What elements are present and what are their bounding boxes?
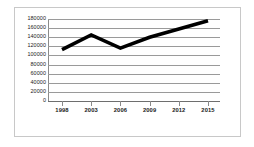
x-axis-tick [120, 101, 121, 106]
y-axis-label: 180000 [27, 16, 46, 21]
x-axis-ticks [48, 101, 220, 106]
x-axis-label: 2006 [114, 108, 127, 114]
y-axis-label: 20000 [31, 89, 47, 94]
x-axis-tick [62, 101, 63, 106]
y-axis-tick-labels: 1800001600001400001200001000008000060000… [14, 19, 47, 101]
y-axis-label: 100000 [27, 53, 46, 58]
y-axis-label: 160000 [27, 25, 46, 30]
x-axis-tick [179, 101, 180, 106]
x-axis-label: 1998 [55, 108, 68, 114]
y-axis-label: 40000 [31, 80, 47, 85]
x-axis-tick [91, 101, 92, 106]
series-plot [48, 19, 220, 101]
x-axis-label: 2009 [143, 108, 156, 114]
y-axis-label: 60000 [31, 71, 47, 76]
plot-area [48, 19, 220, 101]
x-axis-label: 2003 [85, 108, 98, 114]
y-axis-label: 120000 [27, 44, 46, 49]
y-axis-label: 80000 [31, 62, 47, 67]
x-axis-label: 2012 [172, 108, 185, 114]
series-line-path [62, 21, 208, 50]
x-axis-label: 2015 [201, 108, 214, 114]
y-axis-label: 140000 [27, 35, 46, 40]
x-axis-tick [150, 101, 151, 106]
x-axis-tick [208, 101, 209, 106]
chart-figure: 1800001600001400001200001000008000060000… [0, 0, 254, 147]
y-axis-label: 0 [43, 98, 46, 103]
x-axis-tick-labels: 199820032006200920122015 [48, 108, 220, 124]
